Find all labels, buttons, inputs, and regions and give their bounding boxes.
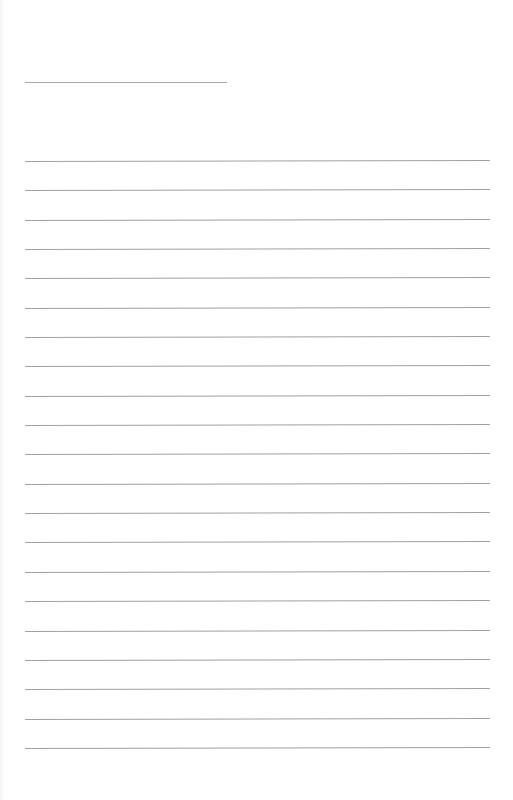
ruled-line (25, 277, 490, 279)
page-edge-shadow (0, 0, 4, 800)
ruled-line (25, 365, 490, 367)
ruled-line (25, 747, 490, 749)
ruled-line (25, 395, 490, 397)
ruled-line (25, 659, 490, 661)
ruled-line (25, 630, 490, 632)
ruled-line (25, 189, 490, 191)
ruled-line (25, 307, 490, 309)
ruled-line (25, 483, 490, 485)
ruled-line (25, 512, 490, 514)
ruled-line (25, 571, 490, 573)
ruled-line (25, 541, 490, 543)
ruled-line (25, 248, 490, 250)
ruled-line (25, 688, 490, 690)
ruled-line (25, 600, 490, 602)
ruled-line (25, 336, 490, 338)
lined-paper-page (0, 0, 513, 800)
ruled-line (25, 219, 490, 221)
ruled-line (25, 424, 490, 426)
title-line (25, 82, 227, 83)
ruled-line (25, 453, 490, 455)
ruled-line (25, 718, 490, 720)
ruled-line (25, 160, 490, 162)
